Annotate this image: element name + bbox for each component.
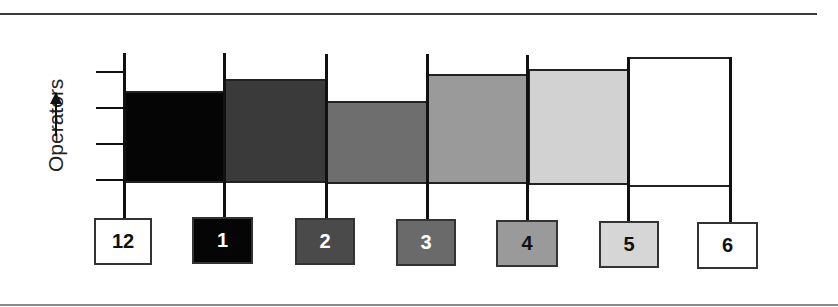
hour-line-5: [627, 57, 630, 222]
hour-label-1: 1: [192, 217, 253, 264]
hour-label-text: 4: [521, 232, 532, 255]
top-rule: [0, 13, 817, 15]
hour-label-text: 5: [623, 233, 634, 256]
hour-label-text: 12: [112, 230, 134, 253]
hour-line-6: [729, 57, 732, 223]
operator-bar-2-3: [326, 101, 428, 184]
hour-line-1: [223, 53, 226, 218]
operator-bar-4-5: [528, 69, 629, 185]
hour-line-2: [325, 54, 328, 219]
hour-label-6: 6: [697, 222, 758, 269]
hour-line-3: [426, 54, 429, 220]
y-tick: [96, 71, 124, 73]
y-tick: [96, 179, 124, 181]
operator-bar-5-6: [628, 57, 732, 187]
operator-bar-1-2: [224, 79, 327, 183]
hour-label-text: 2: [319, 230, 330, 253]
hour-label-2: 2: [295, 218, 355, 265]
hour-label-12: 12: [94, 218, 152, 265]
hour-label-4: 4: [496, 220, 558, 267]
hour-line-12: [123, 53, 126, 219]
hour-label-text: 6: [722, 234, 733, 257]
y-tick: [96, 143, 124, 145]
bottom-rule: [0, 304, 838, 306]
hour-label-3: 3: [396, 219, 456, 266]
hour-label-text: 1: [217, 229, 228, 252]
hour-label-5: 5: [599, 221, 659, 268]
y-tick: [96, 107, 124, 109]
hour-label-text: 3: [420, 231, 431, 254]
arrow-up-icon: [49, 92, 63, 136]
hour-line-4: [526, 55, 529, 221]
operator-bar-12-1: [124, 91, 226, 183]
operator-bar-3-4: [427, 74, 529, 184]
